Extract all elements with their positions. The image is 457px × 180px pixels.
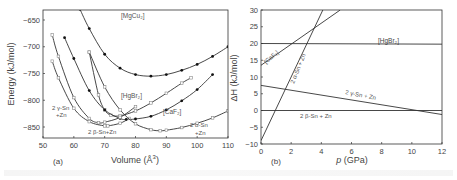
figure-svg: 5060708090100110−650−700−750−800−850 [Mg… bbox=[0, 0, 457, 180]
x-tick-label: 10 bbox=[408, 147, 416, 156]
y-tick-label: −650 bbox=[23, 16, 40, 25]
label-b-beta-sn: 2 β-Sn + Zn bbox=[300, 113, 332, 119]
x-tick-label: 4 bbox=[319, 147, 323, 156]
x-tick-label: 12 bbox=[438, 147, 446, 156]
y-tick-label: −750 bbox=[23, 69, 40, 78]
curve bbox=[89, 52, 228, 131]
label-b-caf2: [CaF₂] bbox=[263, 49, 280, 65]
y-tick-label: −5 bbox=[249, 123, 258, 132]
x-tick-label: 100 bbox=[191, 141, 204, 150]
panel-a-ylabel: Energy (kJ/mol) bbox=[6, 42, 16, 105]
figure-caption-blurred bbox=[4, 170, 453, 176]
panel-b-axes-box bbox=[261, 10, 442, 144]
label-b-hgbr2: [HgBr₂] bbox=[378, 37, 399, 45]
panel-b-tag: (b) bbox=[271, 157, 281, 166]
label-b-gamma-sn: 2 γ-Sn + Zn bbox=[345, 89, 377, 101]
panel-a-tag: (a) bbox=[53, 157, 63, 166]
x-tick-label: 0 bbox=[259, 147, 263, 156]
label-mgcu2: [MgCu₂] bbox=[121, 12, 145, 20]
y-tick-label: 15 bbox=[250, 56, 258, 65]
curve bbox=[80, 9, 228, 76]
panel-a-curves bbox=[51, 8, 229, 132]
y-tick-label: 20 bbox=[250, 39, 258, 48]
y-tick-label: 30 bbox=[250, 6, 258, 15]
y-tick-label: 0 bbox=[254, 106, 258, 115]
y-tick-label: −850 bbox=[23, 123, 40, 132]
label-hgbr2: [HgBr₂] bbox=[121, 92, 142, 100]
enthalpy-line bbox=[261, 44, 442, 45]
curve bbox=[89, 52, 191, 116]
y-tick-label: −800 bbox=[23, 96, 40, 105]
label-gamma-sn-1: 2 γ-Sn bbox=[52, 105, 69, 111]
x-tick-label: 80 bbox=[131, 141, 139, 150]
label-beta-sn: 2 β-Sn+Zn bbox=[88, 129, 116, 135]
x-tick-label: 2 bbox=[289, 147, 293, 156]
x-tick-label: 70 bbox=[100, 141, 108, 150]
panel-b-ylabel: ΔH (kJ/mol) bbox=[229, 54, 239, 101]
x-tick-label: 50 bbox=[39, 141, 47, 150]
panel-b-xlabel: p (GPa) bbox=[335, 155, 368, 165]
x-tick-label: 60 bbox=[70, 141, 78, 150]
label-b-alpha-sn: 2 α-Sn + Zn bbox=[289, 53, 306, 85]
panel-b: 024681012302520151050−5−10 [HgBr₂] [CaF₂… bbox=[229, 6, 446, 167]
panel-b-ticks: 024681012302520151050−5−10 bbox=[245, 6, 446, 157]
panel-a: 5060708090100110−650−700−750−800−850 [Mg… bbox=[6, 8, 234, 166]
y-tick-label: −700 bbox=[23, 42, 40, 51]
y-tick-label: 5 bbox=[254, 89, 258, 98]
x-tick-label: 8 bbox=[380, 147, 384, 156]
y-tick-label: −10 bbox=[245, 140, 258, 149]
panel-a-xlabel: Volume (Å3) bbox=[111, 154, 159, 165]
panel-b-lines bbox=[261, 10, 442, 141]
figure: 5060708090100110−650−700−750−800−850 [Mg… bbox=[0, 0, 457, 180]
x-tick-label: 90 bbox=[162, 141, 170, 150]
label-alpha-sn-1: 2 α-Sn bbox=[190, 122, 208, 128]
y-tick-label: 10 bbox=[250, 73, 258, 82]
y-tick-label: 25 bbox=[250, 22, 258, 31]
label-caf2: [CaF₂] bbox=[163, 108, 182, 116]
label-alpha-sn-2: +Zn bbox=[195, 130, 206, 136]
x-tick-label: 110 bbox=[222, 141, 234, 150]
label-gamma-sn-2: +Zn bbox=[56, 112, 67, 118]
